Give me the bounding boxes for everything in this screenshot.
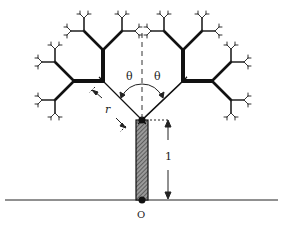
fourth-level-twigs	[42, 18, 244, 113]
fine-twigs	[35, 11, 251, 120]
second-level-branches	[74, 50, 212, 81]
origin-point	[139, 197, 146, 204]
third-level-branches	[55, 31, 231, 100]
trunk-length-label: 1	[165, 150, 172, 163]
fractal-tree-diagram: θ θ r 1 O	[0, 0, 283, 225]
trunk	[136, 120, 148, 200]
theta-left-label: θ	[126, 70, 133, 83]
origin-label: O	[137, 209, 145, 220]
theta-right-label: θ	[154, 70, 161, 83]
r-label: r	[105, 103, 111, 116]
